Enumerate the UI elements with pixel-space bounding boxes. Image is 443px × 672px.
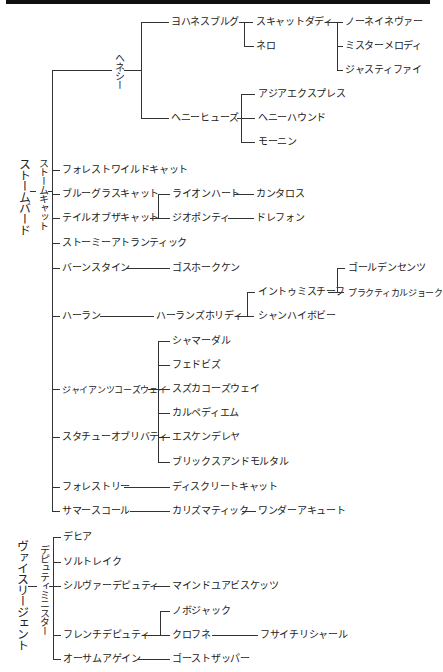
connector [52, 218, 60, 219]
node-summer-squall: サマースコール [62, 505, 130, 517]
header-bar [6, 0, 430, 4]
connector [138, 659, 170, 660]
connector [130, 511, 170, 512]
node-silver-deputy: シルヴァーデピュティ [63, 580, 159, 592]
node-shamardal: シャマーダル [172, 335, 230, 347]
node-storm-cat: ストームキャット [36, 158, 48, 230]
connector [52, 194, 60, 195]
node-statue-of-liberty: スタチューオブリバティ [62, 431, 168, 443]
node-moanin: モーニン [258, 136, 297, 148]
connector [52, 268, 60, 269]
node-deputy-minister: デピュティミニスター [37, 545, 49, 635]
node-nero: ネロ [256, 40, 275, 52]
root-vice-regent: ヴァイスリージェント [13, 540, 27, 650]
node-practical-joke: プラクティカルジョーク [348, 287, 443, 299]
node-mind-your-biscuits: マインドユアビスケッツ [172, 580, 279, 592]
connector [53, 635, 61, 636]
node-bernstein: バーンスタイン [62, 262, 130, 274]
node-charismatic: カリズマティック [172, 505, 249, 517]
node-eskendereya: エスケンデレヤ [172, 431, 240, 443]
connector [53, 586, 61, 587]
connector [142, 635, 170, 636]
connector [160, 611, 161, 635]
node-goshawk-ken: ゴスホークケン [172, 262, 240, 274]
node-shanghai-bobby: シャンハイボビー [258, 310, 336, 322]
connector [337, 268, 338, 292]
connector [52, 437, 60, 438]
connector [241, 142, 255, 143]
connector [236, 316, 254, 317]
node-bricks-and-mortar: ブリックスアンドモルタル [172, 456, 288, 468]
connector [212, 635, 258, 636]
connector [242, 511, 256, 512]
node-tale-of-the-cat: テイルオブザキャット [62, 212, 159, 224]
node-forestry: フォレストリー [62, 481, 130, 493]
connector [53, 537, 61, 538]
connector [247, 292, 255, 293]
connector [52, 170, 60, 171]
connector [124, 487, 170, 488]
connector [141, 22, 142, 118]
connector [52, 511, 60, 512]
connector [158, 194, 170, 195]
connector [53, 562, 61, 563]
node-discreet-cat: ディスクリートキャット [172, 481, 278, 493]
connector [244, 46, 254, 47]
node-carpe-diem: カルペディエム [172, 407, 239, 419]
connector [52, 316, 60, 317]
connector [228, 218, 254, 219]
node-suzuka-causeway: スズカコーズウェイ [172, 383, 259, 395]
connector [328, 292, 344, 293]
node-fusaichi-richard: フサイチリシャール [260, 629, 347, 641]
node-cantaros: カンタロス [256, 188, 305, 200]
node-stormy-atlantic: ストーミーアトランティック [62, 237, 187, 249]
connector [148, 389, 170, 390]
trunk-deputy-minister [53, 537, 54, 659]
connector [239, 22, 253, 23]
node-bluegrass-cat: ブルーグラスキャット [62, 188, 159, 200]
connector [124, 70, 142, 71]
node-mister-melody: ミスターメロディ [345, 40, 422, 52]
connector [158, 413, 170, 414]
node-harlan: ハーラン [62, 310, 101, 322]
connector [158, 365, 170, 366]
node-harlans-holiday: ハーランズホリディ [156, 310, 242, 322]
node-giants-causeway: ジャイアンツコーズウェイ [62, 384, 166, 396]
connector [244, 22, 245, 46]
node-scat-daddy: スキャットダディ [256, 16, 333, 28]
node-kurofune: クロフネ [172, 629, 211, 641]
node-henny-hughes: ヘニーヒューズ [171, 112, 239, 124]
connector [160, 611, 170, 612]
connector [126, 268, 170, 269]
node-hennessy: ヘネシー [112, 53, 124, 89]
connector [241, 94, 255, 95]
node-nobo-jack: ノボジャック [172, 605, 230, 617]
node-golden-sense: ゴールデンセンツ [348, 262, 426, 274]
trunk-storm-cat [52, 70, 53, 511]
connector [337, 70, 343, 71]
node-ghostzapper: ゴーストザッパー [172, 653, 250, 665]
node-dehere: デヒア [63, 531, 92, 543]
connector [141, 118, 169, 119]
root-storm-bird: ストームバード [15, 158, 29, 235]
connector [150, 218, 170, 219]
node-lion-heart: ライオンハート [172, 188, 240, 200]
node-fed-biz: フェドビズ [172, 359, 221, 371]
node-johannesburg: ヨハネスブルグ [171, 16, 239, 28]
node-forest-wildcat: フォレストワイルドキャット [62, 164, 188, 176]
node-awesome-again: オーサムアゲイン [63, 653, 141, 665]
connector [337, 268, 345, 269]
connector [52, 487, 60, 488]
connector [53, 659, 61, 660]
node-drefong: ドレフォン [256, 212, 305, 224]
connector [158, 462, 170, 463]
node-henny-hound: ヘニーハウンド [258, 112, 326, 124]
connector [158, 341, 170, 342]
connector [154, 586, 170, 587]
connector [52, 70, 112, 71]
connector [158, 341, 159, 462]
connector [337, 46, 343, 47]
connector [237, 118, 255, 119]
connector [241, 94, 242, 142]
connector [52, 389, 60, 390]
